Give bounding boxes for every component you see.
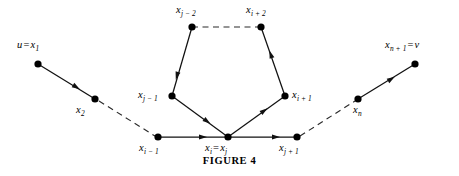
vertex-xi-plus-2: [257, 23, 264, 30]
label-xi-minus-1: xi − 1: [139, 143, 159, 156]
vertex-x2: [91, 95, 98, 102]
label-xj-minus-1: xj − 1: [138, 90, 158, 103]
vertex-start: [34, 60, 41, 67]
label-xn: xn: [353, 105, 362, 118]
vertex-xi-plus-1: [281, 92, 288, 99]
edge-group: [38, 27, 415, 137]
arrowhead-group: [72, 50, 396, 140]
graph-svg: [0, 0, 459, 176]
arrowhead-xi-plus-1-to-xi-plus-2: [267, 50, 274, 59]
edge-center-to-xi-plus-1: [228, 96, 285, 137]
label-xi-plus-1: xi + 1: [292, 90, 312, 103]
arrowhead-xi-minus-1-to-center: [199, 135, 207, 140]
arrowhead-center-to-xj-plus-1: [272, 135, 280, 140]
figure-container: u=x1 x2 xi − 1 xi=xj xj + 1 xn xn + 1=v …: [0, 0, 459, 176]
edge-x2-to-xi-minus-1: [99, 101, 155, 136]
edge-xj-plus-1-to-xn: [300, 101, 355, 136]
edge-xj-minus-1-to-center: [172, 96, 228, 137]
label-x2: x2: [76, 105, 85, 118]
vertex-end: [411, 60, 418, 67]
edge-start-to-x2: [38, 64, 95, 99]
figure-caption: FIGURE 4: [0, 155, 459, 166]
label-xi-plus-2: xi + 2: [246, 5, 266, 18]
vertex-xi-minus-1: [154, 133, 161, 140]
label-end: xn + 1=v: [385, 40, 419, 53]
vertex-xj-plus-1: [293, 133, 300, 140]
label-xj-plus-1: xj + 1: [279, 143, 299, 156]
label-center: xi=xj: [205, 143, 227, 156]
vertex-xj-minus-1: [168, 92, 175, 99]
label-start: u=x1: [17, 40, 39, 53]
vertex-center: [224, 133, 231, 140]
vertex-xn: [354, 95, 361, 102]
vertex-group: [34, 23, 418, 140]
label-xj-minus-2: xj − 2: [176, 5, 196, 18]
vertex-xj-minus-2: [188, 23, 195, 30]
edge-xj-minus-2-to-xj-minus-1: [172, 27, 192, 96]
edge-xi-plus-1-to-xi-plus-2: [261, 27, 285, 96]
edge-xn-to-end: [358, 64, 415, 99]
